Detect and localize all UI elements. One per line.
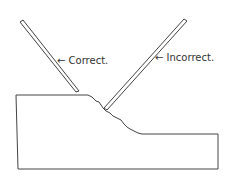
correct-label: ← Correct. <box>57 55 108 66</box>
diagram-canvas <box>0 0 233 181</box>
incorrect-label: ← Incorrect. <box>155 52 214 63</box>
arrow-left-icon: ← <box>155 52 163 63</box>
material-block <box>16 95 218 169</box>
arrow-left-icon: ← <box>57 55 65 66</box>
incorrect-tool <box>104 19 187 110</box>
